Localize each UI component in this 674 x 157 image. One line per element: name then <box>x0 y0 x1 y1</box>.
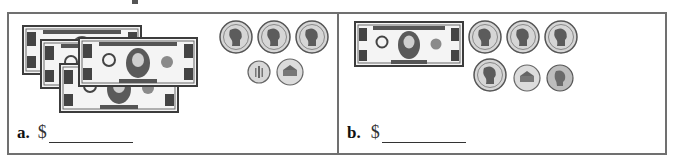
answer-blank-b[interactable] <box>382 126 466 143</box>
dollar-sign: $ <box>371 122 380 143</box>
dollar-sign: $ <box>38 122 47 143</box>
answer-b: b. $ <box>347 122 466 143</box>
money-illustration-a <box>9 14 337 114</box>
problem-b-panel: b. $ <box>339 14 665 153</box>
problem-a-panel: a. $ <box>9 14 337 153</box>
problem-label: b. <box>347 123 361 143</box>
clipped-glyph <box>132 0 138 4</box>
answer-blank-a[interactable] <box>49 126 133 143</box>
money-illustration-b <box>339 14 665 114</box>
answer-a: a. $ <box>17 122 133 143</box>
problem-label: a. <box>17 123 30 143</box>
